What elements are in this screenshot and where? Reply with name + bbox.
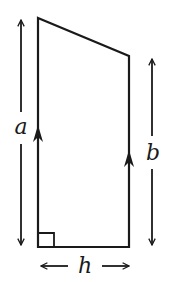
dimension-h: h — [41, 253, 129, 278]
right-angle-marker — [38, 233, 54, 247]
trapezium-outline — [38, 18, 129, 247]
label-h: h — [78, 253, 92, 278]
dimension-a: a — [14, 20, 27, 245]
label-a: a — [14, 114, 27, 139]
dimension-b: b — [146, 59, 160, 245]
trapezium-diagram: a b h — [0, 0, 174, 282]
label-b: b — [146, 140, 160, 165]
